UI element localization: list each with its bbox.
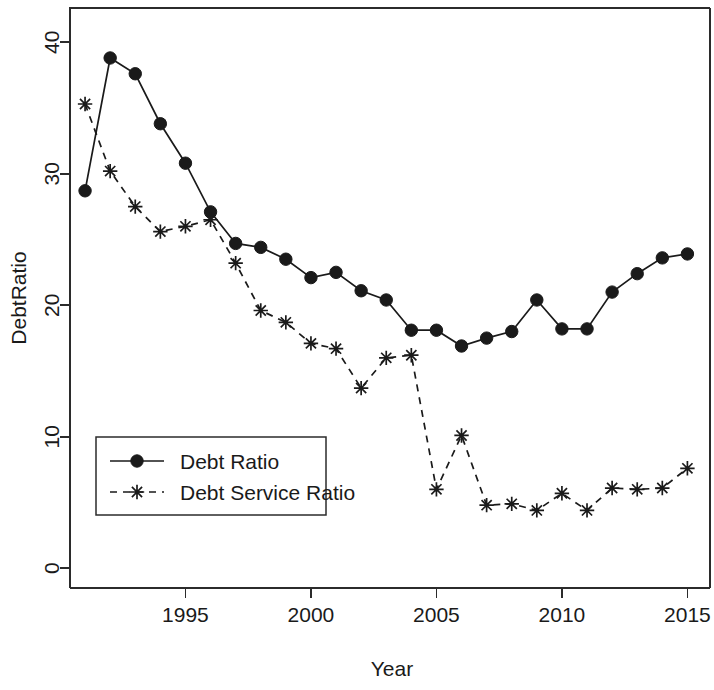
x-tick-label: 2015 [664, 603, 711, 626]
data-point-asterisk [178, 219, 192, 233]
y-tick-label: 30 [41, 162, 64, 185]
data-point-asterisk [530, 503, 544, 517]
data-point-circle [380, 294, 392, 306]
data-point-asterisk [254, 303, 268, 317]
data-point-asterisk [153, 224, 167, 238]
data-point-circle [255, 241, 267, 253]
data-point-circle [280, 253, 292, 265]
data-point-circle [506, 325, 518, 337]
data-point-asterisk [580, 503, 594, 517]
data-point-asterisk [429, 482, 443, 496]
data-point-circle [631, 267, 643, 279]
data-point-asterisk [454, 428, 468, 442]
data-point-asterisk [630, 482, 644, 496]
data-point-circle [229, 237, 241, 249]
data-point-asterisk [655, 481, 669, 495]
data-point-circle [606, 286, 618, 298]
data-point-asterisk [304, 336, 318, 350]
data-point-circle [154, 118, 166, 130]
data-point-circle [556, 323, 568, 335]
data-point-asterisk [78, 97, 92, 111]
data-point-circle [531, 294, 543, 306]
data-point-asterisk [605, 481, 619, 495]
data-point-asterisk [379, 351, 393, 365]
data-point-asterisk [505, 497, 519, 511]
data-point-asterisk [228, 256, 242, 270]
y-axis: 010203040 [41, 31, 71, 575]
data-point-circle [104, 52, 116, 64]
data-point-circle [455, 340, 467, 352]
data-point-circle [131, 455, 143, 467]
data-point-circle [656, 252, 668, 264]
data-point-circle [681, 248, 693, 260]
data-point-asterisk [404, 348, 418, 362]
data-point-circle [405, 324, 417, 336]
legend-label: Debt Service Ratio [180, 481, 355, 504]
x-axis: 19952000200520102015 [162, 588, 711, 626]
y-tick-label: 0 [41, 562, 64, 574]
data-point-circle [430, 324, 442, 336]
x-axis-title: Year [371, 657, 413, 680]
data-point-asterisk [103, 164, 117, 178]
chart-legend: Debt RatioDebt Service Ratio [96, 437, 355, 515]
data-point-circle [355, 285, 367, 297]
data-point-asterisk [203, 213, 217, 227]
data-point-asterisk [680, 461, 694, 475]
x-tick-label: 2010 [539, 603, 586, 626]
data-point-asterisk [130, 485, 144, 499]
data-point-circle [581, 323, 593, 335]
series-debt-ratio [79, 52, 694, 352]
chart-figure: 010203040 19952000200520102015 Debt Rati… [0, 0, 714, 690]
data-point-asterisk [479, 498, 493, 512]
data-point-asterisk [354, 381, 368, 395]
legend-label: Debt Ratio [180, 450, 279, 473]
x-tick-label: 2005 [413, 603, 460, 626]
data-point-circle [480, 332, 492, 344]
y-tick-label: 20 [41, 294, 64, 317]
y-tick-label: 10 [41, 425, 64, 448]
data-point-asterisk [279, 315, 293, 329]
y-axis-title: DebtRatio [7, 251, 30, 344]
data-point-circle [129, 68, 141, 80]
data-point-circle [79, 185, 91, 197]
data-point-circle [179, 157, 191, 169]
data-point-asterisk [555, 486, 569, 500]
x-tick-label: 1995 [162, 603, 209, 626]
data-point-asterisk [329, 341, 343, 355]
data-point-asterisk [128, 199, 142, 213]
debt-ratio-line-chart: 010203040 19952000200520102015 Debt Rati… [0, 0, 714, 690]
data-point-circle [330, 266, 342, 278]
x-tick-label: 2000 [288, 603, 335, 626]
y-tick-label: 40 [41, 31, 64, 54]
data-point-circle [305, 271, 317, 283]
